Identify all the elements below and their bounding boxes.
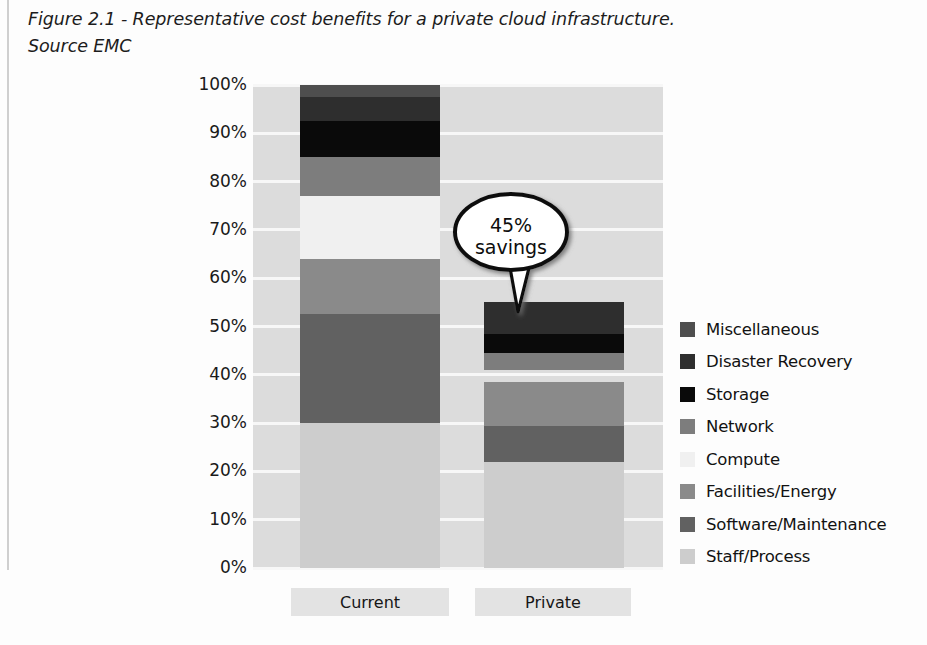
y-axis-tick-10: 10% [175,511,247,528]
legend-item-network[interactable]: Network [680,411,925,444]
x-axis-label-text: Current [340,593,400,612]
bar-segment-facilities-energy [484,382,624,425]
legend-swatch-icon [680,354,695,369]
bar-segment-disaster-recovery [300,97,440,121]
legend-item-miscellaneous[interactable]: Miscellaneous [680,313,925,346]
bar-segment-compute [300,196,440,259]
y-axis-tick-70: 70% [175,221,247,238]
legend-item-label: Storage [706,385,769,404]
bar-segment-staff-process [484,462,624,568]
legend-swatch-icon [680,322,695,337]
legend-item-label: Disaster Recovery [706,352,852,371]
x-axis-label-private: Private [475,588,631,616]
legend-swatch-icon [680,452,695,467]
x-axis-label-text: Private [525,593,581,612]
bar-segment-miscellaneous [300,85,440,97]
legend-item-label: Software/Maintenance [706,515,887,534]
legend-item-storage[interactable]: Storage [680,378,925,411]
bar-segment-storage [484,334,624,353]
y-axis-tick-30: 30% [175,414,247,431]
legend-swatch-icon [680,419,695,434]
legend-item-label: Staff/Process [706,547,810,566]
y-axis-tick-90: 90% [175,124,247,141]
bar-segment-facilities-energy [300,259,440,315]
y-axis-tick-40: 40% [175,366,247,383]
legend-swatch-icon [680,387,695,402]
legend-item-staff-process[interactable]: Staff/Process [680,541,925,574]
legend-item-compute[interactable]: Compute [680,443,925,476]
bar-segment-disaster-recovery [484,302,624,333]
y-axis-tick-50: 50% [175,318,247,335]
legend-swatch-icon [680,549,695,564]
figure-page: Figure 2.1 - Representative cost benefit… [0,0,927,645]
y-axis-tick-0: 0% [175,559,247,576]
bar-segment-storage [300,121,440,157]
plot-area [253,85,663,568]
x-axis-label-current: Current [291,588,449,616]
legend-item-label: Compute [706,450,780,469]
legend-item-label: Network [706,417,774,436]
legend-item-facilities-energy[interactable]: Facilities/Energy [680,476,925,509]
legend-item-software-maintenance[interactable]: Software/Maintenance [680,508,925,541]
legend-item-label: Miscellaneous [706,320,819,339]
y-axis: 0%10%20%30%40%50%60%70%80%90%100% [172,85,247,568]
legend-item-disaster-recovery[interactable]: Disaster Recovery [680,346,925,379]
bar-current [300,85,440,568]
bar-segment-software-maintenance [300,314,440,423]
bar-segment-network [300,157,440,196]
chart-legend: MiscellaneousDisaster RecoveryStorageNet… [680,313,925,573]
y-axis-tick-20: 20% [175,462,247,479]
bar-segment-staff-process [300,423,440,568]
y-axis-tick-80: 80% [175,173,247,190]
bar-segment-network [484,353,624,370]
legend-swatch-icon [680,484,695,499]
stacked-bar-chart: 0%10%20%30%40%50%60%70%80%90%100% Curren… [0,0,927,645]
y-axis-tick-100: 100% [175,76,247,93]
bar-private [484,85,624,568]
legend-item-label: Facilities/Energy [706,482,837,501]
legend-swatch-icon [680,517,695,532]
y-axis-tick-60: 60% [175,269,247,286]
